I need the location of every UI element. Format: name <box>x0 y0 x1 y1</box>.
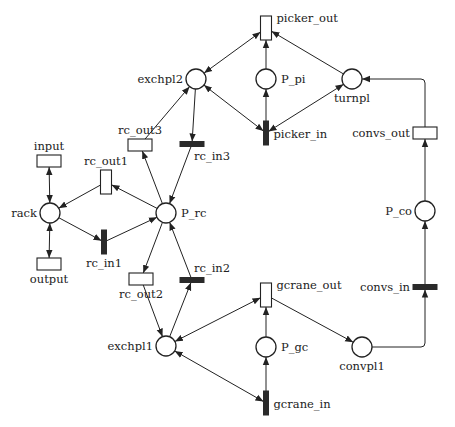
transition-rc-out2[interactable] <box>129 273 153 285</box>
transition-rc-in1[interactable] <box>102 230 107 254</box>
place-exchpl1[interactable] <box>156 336 176 356</box>
transition-rc-in2[interactable] <box>180 278 204 283</box>
place-rack[interactable] <box>40 203 60 223</box>
place-p-rc[interactable] <box>156 203 176 223</box>
arc-p-rc-to-rc-out2 <box>143 222 162 273</box>
label-input: input <box>34 139 65 153</box>
place-p-co[interactable] <box>415 201 435 221</box>
transition-input[interactable] <box>37 155 61 167</box>
label-gcrane-out: gcrane_out <box>277 278 342 292</box>
transition-rc-in3[interactable] <box>180 142 204 147</box>
transition-rc-out1[interactable] <box>101 170 112 194</box>
arc-exchpl1-to-gcrane-out <box>175 298 261 342</box>
label-gcrane-in: gcrane_in <box>274 397 332 411</box>
label-convpl1: convpl1 <box>339 359 385 373</box>
label-rc-out1: rc_out1 <box>84 154 128 168</box>
label-convs-out: convs_out <box>352 126 410 140</box>
label-exchpl2: exchpl2 <box>138 72 184 86</box>
arc-convs-out-to-turnpl <box>362 79 425 127</box>
transition-picker-out[interactable] <box>261 16 272 40</box>
arc-rack-to-rc-in1 <box>59 218 102 241</box>
transition-output[interactable] <box>37 258 61 270</box>
transition-gcrane-out[interactable] <box>261 283 272 307</box>
place-exchpl2[interactable] <box>186 69 206 89</box>
arc-rc-in3-to-p-rc <box>170 147 192 204</box>
label-rack: rack <box>11 206 38 220</box>
label-p-pi: P_pi <box>281 72 306 86</box>
transition-picker-in[interactable] <box>264 121 269 145</box>
label-convs-in: convs_in <box>360 280 411 294</box>
transition-gcrane-in[interactable] <box>264 391 269 415</box>
label-rc-out3: rc_out3 <box>118 123 162 137</box>
arc-gcrane-out-to-convpl1 <box>272 298 354 342</box>
arc-turnpl-to-picker-out <box>272 31 344 74</box>
petri-net-diagram: rackP_rcexchpl2P_piturnplP_coexchpl1P_gc… <box>0 0 455 427</box>
transition-convs-in[interactable] <box>413 285 437 290</box>
transition-convs-out[interactable] <box>413 127 437 139</box>
place-convpl1[interactable] <box>352 337 372 357</box>
place-p-pi[interactable] <box>256 69 276 89</box>
label-picker-out: picker_out <box>277 11 339 25</box>
arc-rc-out1-to-rack <box>59 185 101 208</box>
diagram-svg: rackP_rcexchpl2P_piturnplP_coexchpl1P_gc… <box>0 0 455 427</box>
arc-exchpl2-to-picker-out <box>204 32 260 73</box>
label-p-rc: P_rc <box>181 206 206 220</box>
arc-input-to-rack <box>49 167 50 203</box>
arc-rc-in2-to-p-rc <box>170 222 191 277</box>
arc-picker-in-to-turnpl <box>269 84 344 131</box>
label-exchpl1: exchpl1 <box>108 339 154 353</box>
label-rc-in3: rc_in3 <box>194 149 230 163</box>
label-p-co: P_co <box>385 204 412 218</box>
arc-p-rc-to-rc-out3 <box>142 151 162 204</box>
arc-exchpl1-to-rc-in2 <box>170 283 191 337</box>
arc-rc-in1-to-p-rc <box>107 217 157 241</box>
place-p-gc[interactable] <box>256 337 276 357</box>
label-output: output <box>30 272 69 286</box>
arc-exchpl1-to-gcrane-in <box>175 351 264 402</box>
label-picker-in: picker_in <box>274 127 328 141</box>
arc-convpl1-to-convs-in <box>372 290 425 348</box>
arc-p-rc-to-rc-out1 <box>112 185 158 209</box>
label-rc-in2: rc_in2 <box>194 261 230 275</box>
label-p-gc: P_gc <box>281 340 308 354</box>
arc-exchpl2-to-picker-in <box>204 85 264 131</box>
label-rc-out2: rc_out2 <box>119 287 163 301</box>
transition-rc-out3[interactable] <box>128 139 152 151</box>
label-turnpl: turnpl <box>334 91 370 105</box>
arc-exchpl2-to-rc-in3 <box>192 89 195 142</box>
label-rc-in1: rc_in1 <box>86 256 122 270</box>
nodes-layer <box>37 16 437 415</box>
arc-rack-to-output <box>49 223 50 258</box>
place-turnpl[interactable] <box>342 69 362 89</box>
